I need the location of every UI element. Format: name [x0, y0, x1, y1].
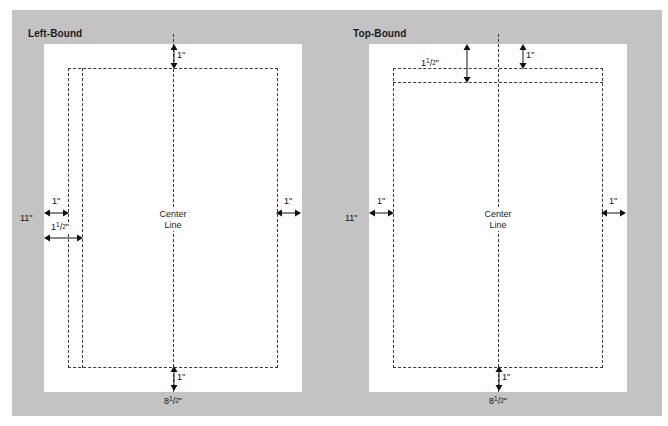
page-height-label: 11": [20, 213, 33, 223]
center-line-label: Center Line: [463, 209, 533, 231]
diagram-plate: Left-Bound Center Line 1": [12, 10, 662, 416]
page-sheet-top-bound: Center Line 11/2" 1": [369, 44, 627, 392]
panel-title-top-bound: Top-Bound: [353, 28, 406, 39]
panel-left-bound: Left-Bound Center Line 1": [12, 10, 337, 416]
right-margin-arrow: [276, 207, 302, 219]
gutter-guide-line: [82, 68, 83, 368]
top-gutter-label: 11/2": [421, 58, 439, 68]
page-width-label: 81/2": [44, 396, 302, 406]
gutter-label: 11/2": [51, 222, 69, 232]
center-line-label: Center Line: [138, 209, 208, 231]
top-margin-label: 1": [177, 50, 185, 60]
page-height-label: 11": [345, 213, 358, 223]
panel-title-left-bound: Left-Bound: [28, 28, 82, 39]
left-margin-label: 1": [52, 196, 60, 206]
right-margin-arrow: [601, 207, 627, 219]
panel-top-bound: Top-Bound Center Line 11/2": [337, 10, 662, 416]
top-margin-label: 1": [526, 50, 534, 60]
bottom-margin-label: 1": [502, 372, 510, 382]
margin-layout-diagram: Left-Bound Center Line 1": [0, 0, 668, 426]
left-margin-label: 1": [377, 196, 385, 206]
page-width-label: 81/2": [369, 396, 627, 406]
right-margin-label: 1": [609, 196, 617, 206]
right-margin-label: 1": [284, 196, 292, 206]
gutter-arrow: [44, 232, 84, 244]
left-margin-arrow: [44, 207, 70, 219]
top-gutter-arrow: [461, 44, 473, 84]
bottom-margin-label: 1": [177, 372, 185, 382]
left-margin-arrow: [369, 207, 395, 219]
page-sheet-left-bound: Center Line 1" 1": [44, 44, 302, 392]
